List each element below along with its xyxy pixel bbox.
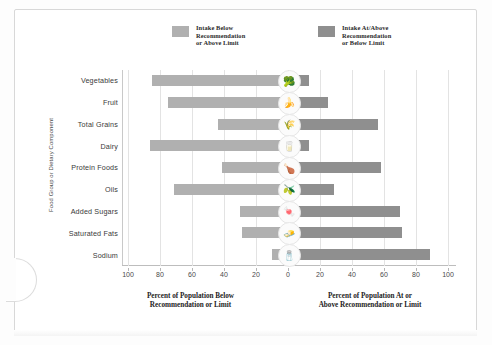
category-label-vegetables: Vegetables bbox=[8, 76, 118, 85]
scan-shadow bbox=[14, 330, 477, 336]
tick-label: 40 bbox=[337, 271, 367, 278]
tick-label: 60 bbox=[177, 271, 207, 278]
legend-swatch-below bbox=[172, 26, 189, 37]
tick-label: 80 bbox=[145, 271, 175, 278]
bar-below-vegetables bbox=[152, 75, 288, 86]
vegetables-icon: 🥦 bbox=[278, 70, 301, 93]
chart-row: 🍌 bbox=[122, 92, 456, 114]
x-axis-ticks: 10080604020020406080100 bbox=[122, 268, 456, 280]
category-label-added-sugars: Added Sugars bbox=[8, 207, 118, 216]
x-axis-title-left: Percent of Population Below Recommendati… bbox=[108, 292, 273, 311]
bar-above-sodium bbox=[288, 249, 430, 260]
tick-label: 20 bbox=[305, 271, 335, 278]
fruit-icon: 🍌 bbox=[278, 92, 301, 115]
bar-below-dairy bbox=[150, 140, 288, 151]
chart-row: 🧂 bbox=[122, 244, 456, 266]
category-label-dairy: Dairy bbox=[8, 142, 118, 151]
category-label-total-grains: Total Grains bbox=[8, 120, 118, 129]
sodium-icon: 🧂 bbox=[278, 244, 301, 267]
bar-above-total-grains bbox=[288, 119, 378, 130]
bar-above-added-sugars bbox=[288, 206, 400, 217]
chart-row: 🍗 bbox=[122, 157, 456, 179]
chart-row: 🫒 bbox=[122, 179, 456, 201]
category-label-oils: Oils bbox=[8, 185, 118, 194]
legend-item-above: Intake At/Above Recommendation or Below … bbox=[318, 24, 391, 47]
category-label-sodium: Sodium bbox=[8, 251, 118, 260]
legend-label-above: Intake At/Above Recommendation or Below … bbox=[342, 24, 391, 47]
bar-below-fruit bbox=[168, 97, 288, 108]
tick-label: 20 bbox=[241, 271, 271, 278]
legend-swatch-above bbox=[318, 26, 335, 37]
dairy-icon: 🥛 bbox=[278, 135, 301, 158]
total-grains-icon: 🌾 bbox=[278, 114, 301, 137]
bar-above-protein-foods bbox=[288, 162, 381, 173]
tick-label: 0 bbox=[273, 271, 303, 278]
chart-row: 🥛 bbox=[122, 135, 456, 157]
chart-row: 🥦 bbox=[122, 70, 456, 92]
protein-foods-icon: 🍗 bbox=[278, 157, 301, 180]
tick-label: 100 bbox=[113, 271, 143, 278]
added-sugars-icon: 🍬 bbox=[278, 201, 301, 224]
tick-label: 100 bbox=[433, 271, 463, 278]
chart-row: 🍬 bbox=[122, 201, 456, 223]
tick-label: 80 bbox=[401, 271, 431, 278]
y-axis-category-labels: VegetablesFruitTotal GrainsDairyProtein … bbox=[4, 70, 118, 266]
tick-label: 60 bbox=[369, 271, 399, 278]
chart-row: 🧈 bbox=[122, 222, 456, 244]
chart-plot-area: 🥦🍌🌾🥛🍗🫒🍬🧈🧂 bbox=[122, 70, 456, 266]
chart-legend: Intake Below Recommendation or Above Lim… bbox=[0, 24, 492, 64]
tick-label: 40 bbox=[209, 271, 239, 278]
bar-below-oils bbox=[174, 184, 288, 195]
category-label-saturated-fats: Saturated Fats bbox=[8, 229, 118, 238]
chart-row: 🌾 bbox=[122, 114, 456, 136]
x-axis-title-right: Percent of Population At or Above Recomm… bbox=[284, 292, 456, 311]
oils-icon: 🫒 bbox=[278, 179, 301, 202]
saturated-fats-icon: 🧈 bbox=[278, 222, 301, 245]
legend-item-below: Intake Below Recommendation or Above Lim… bbox=[172, 24, 245, 47]
legend-label-below: Intake Below Recommendation or Above Lim… bbox=[196, 24, 245, 47]
scanned-page: Intake Below Recommendation or Above Lim… bbox=[0, 0, 492, 345]
category-label-fruit: Fruit bbox=[8, 98, 118, 107]
category-label-protein-foods: Protein Foods bbox=[8, 163, 118, 172]
bar-above-saturated-fats bbox=[288, 227, 402, 238]
